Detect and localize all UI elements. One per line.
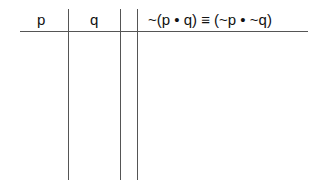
- column-header-p: p: [37, 11, 45, 29]
- header-divider: [20, 31, 308, 32]
- column-divider-1: [68, 9, 69, 180]
- column-divider-3: [137, 9, 138, 180]
- column-header-expression: ~(p • q) ≡ (~p • ~q): [148, 11, 272, 29]
- column-divider-2: [120, 9, 121, 180]
- column-header-q: q: [90, 11, 98, 29]
